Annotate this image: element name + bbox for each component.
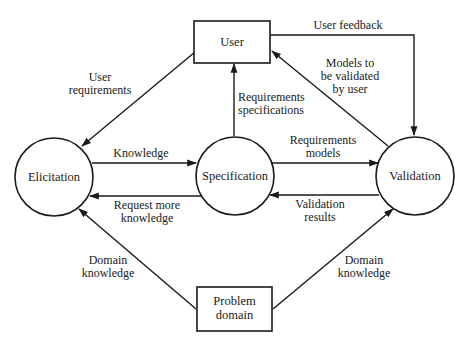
- node-elicitation-label: Elicitation: [28, 170, 81, 184]
- label-requirements-models-1: Requirements: [290, 133, 357, 147]
- label-models-to-be-validated: Models to be validated by user: [321, 56, 379, 96]
- label-domain-knowledge-validation-1: Domain: [345, 253, 384, 267]
- node-specification: Specification: [196, 137, 274, 215]
- node-elicitation: Elicitation: [15, 138, 93, 216]
- node-specification-label: Specification: [202, 169, 269, 183]
- label-user-requirements: User requirements: [69, 70, 132, 97]
- label-requirements-models: Requirements models: [290, 133, 357, 160]
- label-requirements-specifications-1: Requirements: [238, 90, 305, 104]
- label-request-more-knowledge-1: Request more: [114, 198, 180, 212]
- label-user-requirements-2: requirements: [69, 83, 132, 97]
- node-validation: Validation: [376, 137, 454, 215]
- label-validation-results: Validation results: [295, 197, 344, 224]
- edge-user-requirements: [82, 52, 195, 146]
- label-request-more-knowledge-2: knowledge: [121, 211, 174, 225]
- requirements-process-diagram: User Problem domain Elicitation Specific…: [0, 0, 473, 343]
- label-models-to-be-validated-1: Models to: [326, 56, 374, 70]
- label-requirements-specifications-2: specifications: [238, 103, 304, 117]
- node-validation-label: Validation: [389, 169, 441, 183]
- label-domain-knowledge-validation-2: knowledge: [338, 266, 391, 280]
- label-validation-results-1: Validation: [295, 197, 344, 211]
- node-problem-domain-label-2: domain: [216, 308, 254, 322]
- label-request-more-knowledge: Request more knowledge: [114, 198, 180, 225]
- label-user-requirements-1: User: [89, 70, 112, 84]
- label-domain-knowledge-elicitation: Domain knowledge: [82, 253, 135, 280]
- node-problem-domain: Problem domain: [197, 287, 272, 331]
- label-domain-knowledge-elicitation-1: Domain: [89, 253, 128, 267]
- label-knowledge: Knowledge: [113, 146, 168, 160]
- label-user-feedback: User feedback: [314, 18, 383, 32]
- node-user-label: User: [220, 35, 244, 49]
- label-requirements-models-2: models: [306, 146, 341, 160]
- label-domain-knowledge-elicitation-2: knowledge: [82, 266, 135, 280]
- label-models-to-be-validated-2: be validated: [321, 69, 379, 83]
- label-domain-knowledge-validation: Domain knowledge: [338, 253, 391, 280]
- label-requirements-specifications: Requirements specifications: [238, 90, 305, 117]
- label-validation-results-2: results: [304, 210, 336, 224]
- label-models-to-be-validated-3: by user: [333, 82, 368, 96]
- node-problem-domain-label-1: Problem: [213, 294, 256, 308]
- node-user: User: [194, 21, 270, 63]
